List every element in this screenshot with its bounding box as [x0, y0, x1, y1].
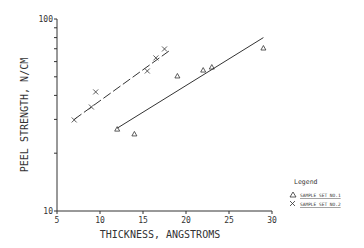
- data-points: [72, 46, 266, 136]
- legend-label-set-2: SAMPLE SET NO.2: [300, 202, 341, 207]
- x-marker: [162, 46, 167, 51]
- y-tick-label-10: 10: [43, 207, 53, 216]
- x-tick-label: 10: [95, 216, 105, 225]
- x-tick-label: 30: [267, 216, 277, 225]
- x-marker: [145, 69, 150, 74]
- legend-title: Legend: [294, 178, 318, 186]
- x-marker-icon: [290, 201, 295, 206]
- x-marker: [153, 55, 158, 60]
- x-tick-label: 25: [224, 216, 234, 225]
- x-tick-label: 15: [138, 216, 148, 225]
- triangle-marker-icon: [290, 192, 296, 197]
- fit-line: [74, 51, 169, 119]
- x-tick-label: 20: [181, 216, 191, 225]
- x-marker: [89, 105, 94, 110]
- y-axis-label: PEEL STRENGTH, N/CM: [19, 58, 30, 172]
- triangle-marker: [175, 73, 180, 78]
- legend-label-set-1: SAMPLE SET NO.1: [300, 193, 341, 198]
- chart: 100 10 51015202530 THICKNESS, ANGSTROMS …: [0, 0, 364, 248]
- triangle-marker: [261, 46, 266, 51]
- triangle-marker: [209, 65, 214, 70]
- x-axis-label: THICKNESS, ANGSTROMS: [100, 229, 220, 240]
- fit-line: [117, 38, 263, 129]
- y-tick-label-100: 100: [39, 15, 54, 24]
- x-tick-label: 5: [55, 216, 60, 225]
- legend: Legend SAMPLE SET NO.1 SAMPLE SET NO.2: [290, 178, 341, 207]
- triangle-marker: [201, 68, 206, 73]
- fit-lines: [74, 38, 263, 129]
- x-marker: [72, 117, 77, 122]
- x-tick-labels: 51015202530: [55, 216, 277, 225]
- triangle-marker: [132, 131, 137, 136]
- x-marker: [93, 89, 98, 94]
- axes: [57, 19, 272, 211]
